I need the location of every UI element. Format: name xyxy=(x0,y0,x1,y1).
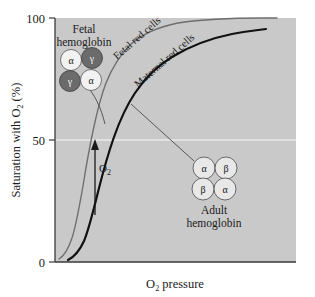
oxygen-saturation-figure: 100 50 0 Saturation with O2 (%) O2 press… xyxy=(0,0,315,297)
adult-hemoglobin-title-line1: Adult xyxy=(201,204,228,216)
o2-arrow-label-main: O xyxy=(99,162,107,174)
fetal-hemoglobin-title-line2: hemoglobin xyxy=(57,36,112,49)
fetal-subunit-alpha-2-label: α xyxy=(88,75,94,86)
fetal-subunit-gamma-1-label: γ xyxy=(89,53,95,64)
y-tick-label-0: 0 xyxy=(39,256,45,270)
adult-subunit-alpha-1-label: α xyxy=(201,163,207,174)
adult-subunit-beta-1-label: β xyxy=(223,163,228,174)
fetal-subunit-alpha-1-label: α xyxy=(68,55,74,66)
x-axis-title: O2 pressure xyxy=(146,277,204,293)
adult-subunit-beta-2-label: β xyxy=(200,184,205,195)
x-axis-title-tail: pressure xyxy=(159,277,204,291)
adult-subunit-alpha-2-label: α xyxy=(222,184,228,195)
o2-arrow-label-sub: 2 xyxy=(107,168,111,177)
y-axis-title-tail: (%) xyxy=(9,83,23,105)
adult-hemoglobin-title-line2: hemoglobin xyxy=(187,217,242,230)
y-axis-title: Saturation with O2 (%) xyxy=(9,83,25,198)
y-tick-label-100: 100 xyxy=(26,12,45,26)
x-axis-title-main: O xyxy=(146,277,155,291)
fetal-subunit-gamma-2-label: γ xyxy=(67,76,73,87)
fetal-hemoglobin-title-line1: Fetal xyxy=(73,23,96,35)
y-axis-title-main: Saturation with O xyxy=(9,108,23,197)
y-tick-label-50: 50 xyxy=(33,134,46,148)
